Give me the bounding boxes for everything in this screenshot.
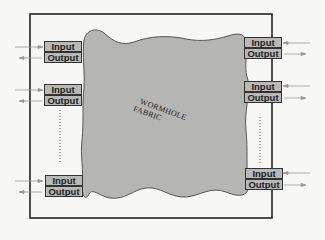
right-port-1-input: Input	[244, 37, 282, 48]
right-port-3-input: Input	[245, 168, 283, 179]
left-arrows	[15, 46, 43, 194]
right-port-2-output: Output	[244, 92, 282, 103]
left-port-1-output: Output	[44, 52, 82, 63]
left-port-3-input: Input	[45, 175, 83, 186]
left-port-1-input: Input	[44, 41, 82, 52]
left-port-3-output: Output	[45, 186, 83, 197]
right-port-3-output: Output	[245, 179, 283, 190]
left-port-2-input: Input	[44, 84, 82, 95]
right-port-2-input: Input	[244, 81, 282, 92]
right-arrows	[283, 42, 310, 187]
right-port-1-output: Output	[244, 48, 282, 59]
left-port-2-output: Output	[44, 95, 82, 106]
